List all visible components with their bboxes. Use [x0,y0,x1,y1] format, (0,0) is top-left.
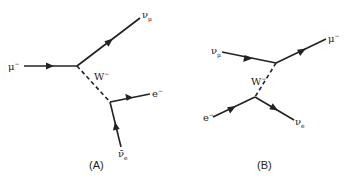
muon-arrow [297,49,306,57]
label-w-boson: W− [94,70,109,82]
label-muon-neutrino: νμ [211,45,221,59]
label-muon-neutrino: νμ [142,9,152,23]
muon-arrow [46,63,54,70]
caption-b: (B) [257,159,272,171]
label-w-boson: W− [251,75,266,87]
muon-neutrino-arrow [104,39,113,47]
label-electron-antineutrino: ν̄e [118,148,128,161]
diagram-a: μ− νμ W− e− ν̄e (A) [8,9,163,171]
caption-a: (A) [89,159,104,171]
label-electron: e− [152,87,163,99]
electron-arrow [227,106,236,114]
electron-arrow [125,94,133,101]
muon-neutrino-arrow [243,55,253,62]
label-electron-neutrino: νe [295,116,305,129]
antineutrino-arrow [113,122,120,131]
label-muon: μ− [8,60,20,72]
feynman-diagrams: μ− νμ W− e− ν̄e (A) νμ μ− W− e− νe (B) [0,0,352,183]
diagram-b: νμ μ− W− e− νe (B) [203,32,340,171]
label-muon: μ− [328,32,340,44]
label-electron: e− [203,111,214,123]
